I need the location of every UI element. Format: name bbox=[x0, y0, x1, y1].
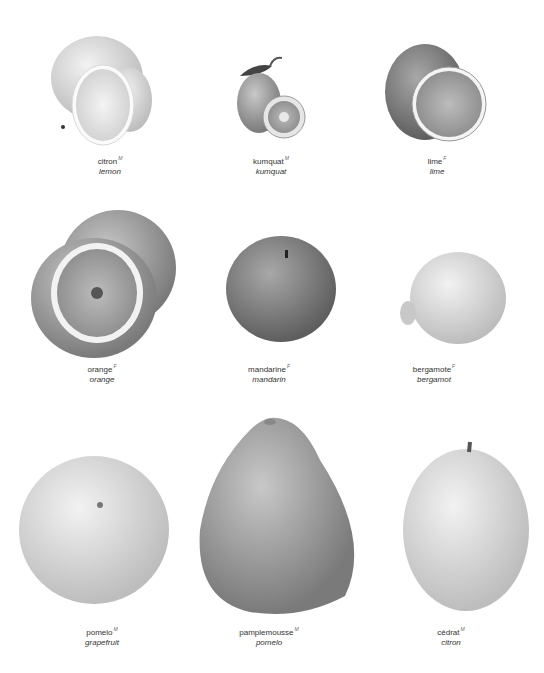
citron-illustration bbox=[403, 442, 529, 611]
fruit-label-citron: cédratM citron bbox=[391, 624, 511, 648]
fruit-label-mandarin: mandarineF mandarin bbox=[209, 361, 329, 385]
fruit-label-lemon: citronM lemon bbox=[50, 153, 170, 177]
fruit-label-orange: orangeF orange bbox=[42, 361, 162, 385]
lime-illustration bbox=[385, 44, 486, 141]
fruit-label-bergamot: bergamoteF bergamot bbox=[374, 361, 494, 385]
fruit-label-kumquat: kumquatM kumquat bbox=[211, 153, 331, 177]
bergamot-illustration bbox=[400, 252, 506, 344]
fruit-label-grapefruit: pomeloM grapefruit bbox=[42, 624, 162, 648]
fruit-illustrations bbox=[0, 0, 544, 673]
fruit-label-pomelo: pamplemousseM pomelo bbox=[209, 624, 329, 648]
fruit-label-lime: limeF lime bbox=[377, 153, 497, 177]
lemon-illustration bbox=[51, 36, 152, 145]
mandarin-illustration bbox=[226, 236, 336, 342]
kumquat-illustration bbox=[237, 58, 305, 138]
grapefruit-illustration bbox=[19, 456, 169, 604]
pomelo-illustration bbox=[200, 418, 355, 614]
orange-illustration bbox=[31, 210, 176, 358]
